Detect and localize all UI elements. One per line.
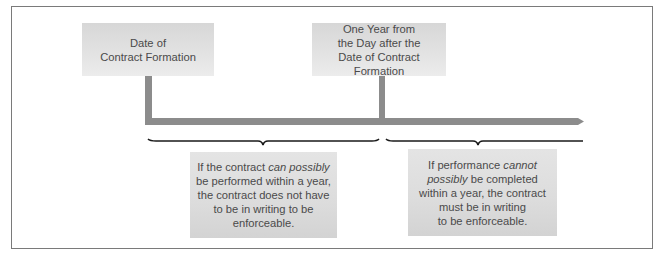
text-run: within a year, the contract <box>419 187 546 199</box>
contract-formation-date-box: Date of Contract Formation <box>82 23 214 76</box>
rule-text-line: within a year, the contract <box>419 186 546 200</box>
one-year-marker-stem <box>379 76 385 121</box>
text-run: the contract does not have <box>198 189 330 201</box>
within-one-year-rule-box: If the contract can possiblybe performed… <box>190 152 337 238</box>
text-run: be performed within a year, <box>196 175 331 187</box>
text-run: be completed <box>468 173 538 185</box>
one-year-date-box: One Year from the Day after the Date of … <box>312 23 446 76</box>
rule-text-line: possibly be completed <box>419 172 546 186</box>
start-marker-stem <box>145 76 152 125</box>
rule-text-line: If the contract can possibly <box>196 160 331 174</box>
within-one-year-rule-text: If the contract can possiblybe performed… <box>196 160 331 230</box>
emphasized-text: possibly <box>427 173 467 185</box>
text-run: If performance <box>428 159 503 171</box>
brace-within-one-year <box>148 139 379 145</box>
label-line: the Day after the <box>312 36 446 50</box>
rule-text-line: to be enforceable. <box>419 214 546 228</box>
text-run: must be in writing <box>439 201 526 213</box>
emphasized-text: can possibly <box>268 161 330 173</box>
label-line: Date of <box>100 36 196 50</box>
emphasized-text: cannot <box>503 159 537 171</box>
text-run: enforceable. <box>233 217 295 229</box>
contract-formation-date-label: Date of Contract Formation <box>100 36 196 64</box>
text-run: to be in writing to be <box>213 203 313 215</box>
beyond-one-year-rule-text: If performance cannotpossibly be complet… <box>419 158 546 228</box>
rule-text-line: If performance cannot <box>419 158 546 172</box>
label-line: Contract Formation <box>100 50 196 64</box>
one-year-date-label: One Year from the Day after the Date of … <box>312 22 446 78</box>
label-line: Date of Contract Formation <box>312 50 446 78</box>
beyond-one-year-rule-box: If performance cannotpossibly be complet… <box>408 149 557 236</box>
rule-text-line: enforceable. <box>196 216 331 230</box>
timeline-arrow <box>145 118 584 125</box>
brace-beyond-one-year <box>386 139 583 145</box>
rule-text-line: to be in writing to be <box>196 202 331 216</box>
text-run: If the contract <box>197 161 268 173</box>
rule-text-line: be performed within a year, <box>196 174 331 188</box>
text-run: to be enforceable. <box>438 215 528 227</box>
rule-text-line: must be in writing <box>419 200 546 214</box>
rule-text-line: the contract does not have <box>196 188 331 202</box>
label-line: One Year from <box>312 22 446 36</box>
